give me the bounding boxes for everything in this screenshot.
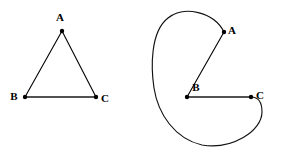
left-edge-A-C xyxy=(62,31,96,97)
left-vertex-dot-A xyxy=(60,29,64,33)
left-vertex-label-A: A xyxy=(56,11,64,23)
right-vertex-dot-B xyxy=(185,95,189,99)
right-edge-A-C-curve xyxy=(152,11,262,145)
figure-canvas: A B C A B C xyxy=(0,0,282,153)
graph-illustration-svg: A B C A B C xyxy=(0,0,282,153)
left-edge-A-B xyxy=(25,31,62,97)
left-vertex-label-C: C xyxy=(101,92,109,104)
right-panel-curved-graph: A B C xyxy=(152,11,264,145)
left-vertex-dot-C xyxy=(94,95,98,99)
right-vertex-label-C: C xyxy=(256,89,264,101)
right-vertex-dot-A xyxy=(222,30,226,34)
left-vertex-dot-B xyxy=(23,95,27,99)
left-panel-triangle: A B C xyxy=(10,11,109,104)
right-vertex-label-A: A xyxy=(228,24,236,36)
left-vertex-label-B: B xyxy=(10,90,18,102)
right-vertex-dot-C xyxy=(249,95,253,99)
right-vertex-label-B: B xyxy=(192,81,200,93)
